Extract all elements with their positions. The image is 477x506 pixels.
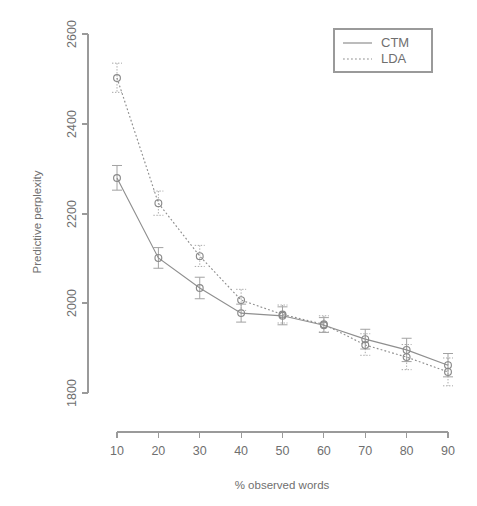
series-markers-lda <box>114 75 452 376</box>
y-tick-label-1800: 1800 <box>65 379 79 407</box>
y-tick-label-2000: 2000 <box>65 289 79 317</box>
perplexity-line-chart: Predictive perplexity % observed words 2… <box>0 0 477 506</box>
x-tick-label-40: 40 <box>234 444 248 458</box>
y-tick-label-2400: 2400 <box>65 110 79 138</box>
x-axis-title: % observed words <box>235 479 330 491</box>
x-tick-label-20: 20 <box>151 444 165 458</box>
x-axis: 102030405060708090 <box>110 432 455 458</box>
series-line-lda <box>117 78 448 372</box>
x-tick-label-60: 60 <box>317 444 331 458</box>
y-tick-label-2200: 2200 <box>65 200 79 228</box>
x-tick-label-10: 10 <box>110 444 124 458</box>
chart-figure: Predictive perplexity % observed words 2… <box>0 0 477 506</box>
x-tick-label-90: 90 <box>441 444 455 458</box>
x-tick-label-30: 30 <box>193 444 207 458</box>
legend-label-ctm: CTM <box>381 35 409 50</box>
series-markers-ctm <box>114 175 452 369</box>
x-tick-label-70: 70 <box>358 444 372 458</box>
y-axis-title: Predictive perplexity <box>31 170 43 273</box>
x-tick-label-50: 50 <box>276 444 290 458</box>
error-bars-ctm <box>112 165 453 376</box>
series-line-ctm <box>117 178 448 365</box>
x-tick-labels: 102030405060708090 <box>110 444 455 458</box>
error-bars-lda <box>112 63 453 386</box>
legend-label-lda: LDA <box>381 51 407 66</box>
x-tick-label-80: 80 <box>400 444 414 458</box>
y-tick-label-2600: 2600 <box>65 20 79 48</box>
x-tick-marks <box>117 432 448 438</box>
legend: CTM LDA <box>334 29 432 72</box>
y-axis: 2600 2400 2200 2000 1800 <box>65 20 88 407</box>
